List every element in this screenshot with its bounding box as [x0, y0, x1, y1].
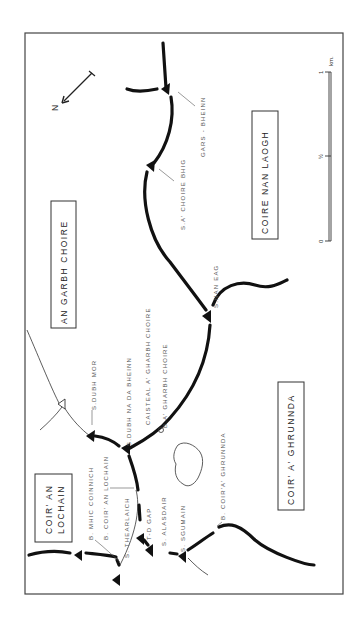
area-label-line1: COIR' AN	[44, 485, 54, 534]
label-caisteal-a-gharbh-choire: CAISTEAL A' GHARBH CHOIRE	[145, 307, 151, 425]
peak-sgurr-dubh-mor-2	[86, 430, 95, 442]
label-sgurr-alasdair: S. ALASDAIR	[161, 496, 167, 546]
ridge-gars-bheinn-spur	[127, 89, 157, 91]
dubh-mor-spur-thin-2	[64, 407, 90, 436]
scale-unit-label: km.	[328, 56, 334, 66]
sketch-map: N	[0, 0, 363, 634]
loch-coir-a-ghrunnda-outline	[174, 443, 203, 486]
ridge-dubh-mor-spur	[95, 436, 119, 446]
scale-label-0: 0	[318, 239, 324, 243]
label-sgurr-nan-eag: S.NAN EAG	[213, 265, 219, 308]
north-arrow: N	[50, 71, 95, 111]
ridge-lochain-west-2	[86, 553, 116, 557]
label-bealach-a-gharbh-choire: B.A' GHARBH CHOIRE	[162, 343, 168, 428]
peak-sgurr-a-choire-bhig	[146, 160, 155, 172]
area-coir-a-ghrunnda: COIR' A' GHRUNNDA	[278, 382, 304, 510]
area-label-line2: LOCHAIN	[56, 485, 66, 534]
ridge-coir-a-ghrunnda-south	[219, 525, 314, 565]
dubh-mor-spur-thin-1	[40, 407, 62, 430]
dubh-mor-ridge-thin	[27, 330, 60, 405]
peak-lochain-west	[74, 550, 82, 561]
leader-choire-bhig	[159, 169, 174, 181]
feature-labels: GARS - BHEINN S.A' CHOIRE BHIG S.NAN EAG…	[88, 96, 226, 558]
scale-label-1: 1	[318, 70, 324, 74]
label-sgurr-a-choire-bhig: S.A' CHOIRE BHIG	[180, 159, 186, 230]
ridge-sgumain-to-coir-a-ghrunnda	[188, 533, 213, 550]
ridge-gars-to-choire-bhig	[154, 97, 172, 163]
area-coire-nan-laogh: COIRE NAN LAOGH	[252, 111, 278, 239]
leader-lines	[92, 92, 222, 562]
sgumain-spur-thin	[188, 558, 208, 575]
area-label: COIRE NAN LAOGH	[260, 131, 270, 234]
area-label: AN GARBH CHOIRE	[59, 220, 69, 324]
label-sgurr-thearlaich: S. THEARLAICH	[124, 497, 130, 558]
peak-sgurr-thearlaich	[136, 533, 144, 545]
leader-gars-bheinn	[178, 92, 195, 106]
label-td-gap: T-D GAP	[146, 508, 152, 540]
label-bealach-coir-an-lochain: B. COIR' AN LOCHAIN	[103, 456, 109, 540]
peaks	[58, 83, 211, 586]
label-sgurr-dubh-mor: S.DUBH MOR	[91, 360, 97, 410]
ridge-thearlaich-dashes	[139, 505, 140, 520]
peak-sgurr-nan-eag	[202, 310, 211, 323]
area-coir-an-lochain: COIR' AN LOCHAIN	[35, 474, 72, 542]
label-gars-bheinn: GARS - BHEINN	[200, 96, 206, 157]
scale-label-half: ½	[318, 154, 324, 159]
peak-sgurr-mhic-coinnich	[112, 574, 120, 586]
ridge-nan-eag-spur	[213, 280, 287, 305]
ridge-gars-bheinn-east	[163, 43, 166, 88]
area-label: COIR' A' GHRUNNDA	[286, 394, 296, 505]
ridge-dubh-na-da-to-thearlaich	[129, 456, 138, 490]
north-label: N	[50, 103, 60, 111]
ridge-choire-bhig-to-nan-eag	[145, 172, 206, 310]
label-sgurr-sgumain: S. SGUMAIN	[180, 505, 186, 552]
label-bealach-mhic-coinnich: B. MHIC COINNICH	[88, 467, 94, 540]
label-sgurr-dubh-na-da-bheinn: S.DUBH NA DA BHEINN	[126, 357, 132, 446]
area-an-garbh-choire: AN GARBH CHOIRE	[51, 201, 76, 328]
north-arrow-shaft	[64, 73, 92, 101]
label-bealach-coir-a-ghrunnda: B. COIR'A' GHRUNNDA	[220, 432, 226, 520]
scale-bar: 0 ½ 1 km.	[318, 56, 334, 243]
ridge-lochain-west-1	[29, 552, 70, 555]
leader-mhic-coinnich	[95, 540, 120, 562]
ridge-alasdair-sgumain	[170, 553, 177, 554]
ridge-nan-eag-to-dubh-na-da	[130, 325, 210, 448]
